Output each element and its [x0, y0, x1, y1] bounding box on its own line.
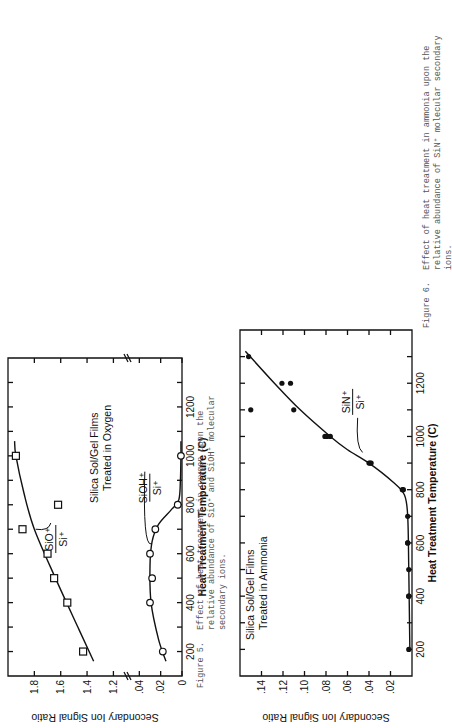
x-tick-label: 1200	[415, 372, 426, 395]
caption-line: Effect of heat treatment in oxygen upon …	[196, 395, 207, 630]
y-tick-label: 1.8	[29, 680, 40, 694]
x-tick-label: 600	[185, 545, 196, 562]
sio-data-point	[19, 526, 26, 533]
y-tick-label: .04	[134, 680, 145, 694]
y-tick-label: .02	[155, 680, 166, 694]
sin-data-point	[406, 594, 411, 599]
x-tick-label: 1000	[185, 444, 196, 467]
sioh-data-point	[152, 526, 159, 533]
caption-line: ions.	[444, 35, 452, 270]
figure-6: 20040060080010001200Heat Treatment Tempe…	[226, 0, 452, 728]
document-page: 20040060080010001200Heat Treatment Tempe…	[0, 0, 452, 728]
sio-data-point	[44, 550, 51, 557]
figure-6-caption: Figure 6. Effect of heat treatment in am…	[422, 35, 452, 328]
x-axis-label: Heat Treatment Temperature (C)	[426, 423, 438, 582]
sin-data-point	[401, 487, 406, 492]
sin-data-point	[279, 381, 284, 386]
figure-5-caption: Figure 5. Effect of heat treatment in ox…	[196, 395, 229, 688]
y-tick-label: .04	[364, 680, 375, 694]
y-tick-label: 1.4	[82, 680, 93, 694]
y-tick-label: .02	[385, 680, 396, 694]
sioh-data-point	[147, 550, 154, 557]
y-tick-label: .14	[256, 680, 267, 694]
y-tick-label: .10	[299, 680, 310, 694]
sin-data-point	[328, 434, 333, 439]
x-tick-label: 800	[415, 481, 426, 498]
title-line: Silica Sol/Gel Films	[88, 405, 101, 503]
sioh-data-point	[147, 599, 154, 606]
sin-data-point	[291, 407, 296, 412]
sin-data-point	[405, 514, 410, 519]
figure-5: 20040060080010001200Heat Treatment Tempe…	[0, 0, 226, 728]
sio-data-point	[80, 648, 87, 655]
x-tick-label: 800	[185, 496, 196, 513]
title-line: Treated in Ammonia	[257, 536, 270, 640]
y-tick-label: .12	[278, 680, 289, 694]
x-tick-label: 200	[185, 643, 196, 660]
sio-data-point	[64, 599, 71, 606]
svg-text:Si⁺: Si⁺	[151, 480, 163, 495]
title-line: Silica Sol/Gel Films	[244, 536, 257, 640]
caption-line: relative abundance of SiO⁺ and SiOH⁺ mol…	[207, 395, 218, 630]
svg-text:Si⁺: Si⁺	[57, 531, 69, 546]
svg-text:SiN⁺: SiN⁺	[340, 390, 352, 413]
y-tick-label: 1.6	[55, 680, 66, 694]
sio-data-point	[51, 575, 58, 582]
y-axis-label: Secondary Ion Signal Ratio	[31, 712, 158, 724]
sioh-fit-curve	[150, 441, 181, 661]
svg-text:SiOH⁺: SiOH⁺	[137, 472, 149, 503]
title-line: Treated in Oxygen	[101, 405, 114, 503]
x-tick-label: 200	[415, 641, 426, 658]
x-tick-label: 1000	[415, 425, 426, 448]
x-tick-label: 400	[185, 594, 196, 611]
sin-label: SiN⁺Si⁺	[340, 389, 366, 453]
svg-text:SiO⁺: SiO⁺	[43, 527, 55, 551]
sin-data-point	[248, 407, 253, 412]
x-tick-label: 1200	[185, 395, 196, 418]
sio-fit-curve	[15, 441, 94, 661]
figure-5-chart: 20040060080010001200Heat Treatment Tempe…	[0, 0, 226, 728]
sio-label: SiO⁺Si⁺	[36, 523, 69, 553]
caption-line: Effect of heat treatment in ammonia upon…	[422, 35, 433, 270]
y-tick-label: 1.2	[108, 680, 119, 694]
sioh-data-point	[174, 501, 181, 508]
y-tick-label: .06	[342, 680, 353, 694]
figure-5-title: Silica Sol/Gel Films Treated in Oxygen	[88, 405, 114, 503]
sin-fit-curve	[245, 351, 409, 649]
y-tick-label: 0	[177, 680, 188, 686]
y-tick-label: .08	[321, 680, 332, 694]
sin-data-point	[406, 647, 411, 652]
figure-6-title: Silica Sol/Gel Films Treated in Ammonia	[244, 536, 270, 640]
sin-data-point	[406, 567, 411, 572]
x-tick-label: 600	[415, 534, 426, 551]
sin-data-point	[288, 381, 293, 386]
caption-line: relative abundance of SiN⁺ molecular sec…	[433, 35, 444, 270]
sioh-data-point	[149, 575, 156, 582]
svg-text:Si⁺: Si⁺	[354, 394, 366, 409]
sioh-data-point	[160, 648, 167, 655]
sio-data-point	[55, 501, 62, 508]
caption-label: Figure 5.	[196, 630, 207, 688]
sioh-data-point	[178, 453, 185, 460]
sin-data-point	[369, 460, 374, 465]
caption-label: Figure 6.	[422, 270, 433, 328]
sio-data-point	[12, 452, 19, 459]
sin-data-point	[405, 540, 410, 545]
y-axis-label: Secondary Ion Signal Ratio	[262, 712, 389, 724]
sioh-label: SiOH⁺Si⁺	[137, 472, 163, 544]
sin-data-point	[246, 354, 251, 359]
x-tick-label: 400	[415, 587, 426, 604]
